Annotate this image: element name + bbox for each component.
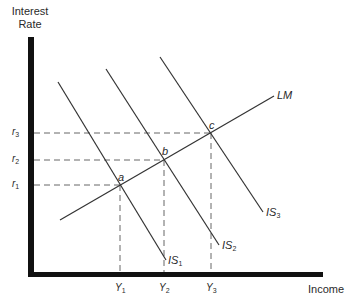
is-lm-diagram: Interest Rate Income r3 r2 r1 Y1 Y2 Y3 a…: [0, 0, 353, 301]
is1-curve: [58, 82, 166, 260]
point-c: c: [209, 119, 215, 131]
is2-curve: [106, 69, 219, 245]
point-b: b: [162, 145, 168, 157]
tick-y1: Y1: [115, 282, 126, 294]
y-axis-title-line2: Rate: [2, 18, 58, 31]
tick-y3: Y3: [206, 282, 217, 294]
is3-curve: [160, 57, 263, 212]
x-axis-title: Income: [308, 283, 344, 296]
y-axis: [28, 37, 34, 277]
y-axis-title-line1: Interest: [2, 5, 58, 18]
label-is2: IS2: [222, 239, 236, 252]
label-is3: IS3: [266, 206, 280, 219]
lm-curve: [60, 96, 274, 220]
tick-y2: Y2: [159, 282, 170, 294]
label-lm: LM: [277, 89, 292, 101]
tick-r1: r1: [12, 178, 19, 190]
tick-r3: r3: [12, 126, 19, 138]
x-axis: [28, 272, 323, 277]
point-a: a: [118, 171, 124, 183]
label-is1: IS1: [168, 254, 182, 267]
tick-r2: r2: [12, 153, 19, 165]
y-axis-title: Interest Rate: [2, 5, 58, 31]
